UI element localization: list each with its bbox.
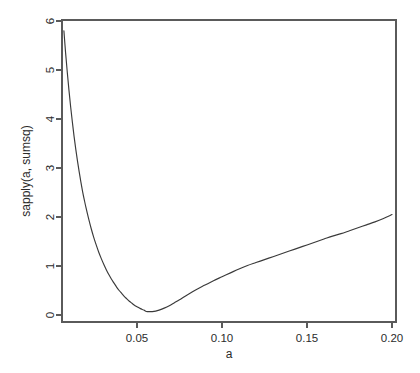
y-tick-label: 2 (44, 214, 56, 220)
plot-container: 0123456 0.050.100.150.20 sapply(a, sumsq… (0, 0, 420, 373)
chart-canvas: 0123456 0.050.100.150.20 sapply(a, sumsq… (0, 0, 420, 373)
y-tick-label: 0 (44, 312, 56, 318)
x-tick-label: 0.05 (126, 332, 148, 344)
x-tick-label: 0.15 (296, 332, 318, 344)
y-axis-title: sapply(a, sumsq) (19, 125, 33, 216)
x-tick-label: 0.10 (211, 332, 233, 344)
y-tick-label: 3 (44, 165, 56, 171)
y-tick-label: 6 (44, 18, 56, 24)
x-axis-title: a (226, 347, 233, 361)
x-tick-label: 0.20 (381, 332, 403, 344)
chart-background (0, 0, 420, 373)
y-tick-label: 4 (44, 115, 56, 122)
y-tick-label: 1 (44, 263, 56, 269)
y-tick-label: 5 (44, 67, 56, 73)
